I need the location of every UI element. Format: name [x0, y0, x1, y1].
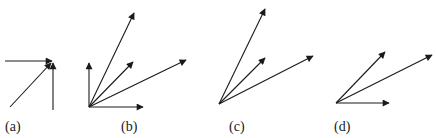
panel-label-c: (c): [229, 119, 245, 135]
panel-a: (a): [5, 61, 53, 135]
vector-b-shallow: [89, 60, 186, 107]
vector-d-long: [336, 55, 432, 103]
vector-c-shallow: [219, 56, 313, 104]
vector-d-upper: [336, 52, 385, 103]
panel-c: (c): [219, 9, 313, 135]
vector-diagram: (a) (b) (c) (d): [0, 0, 436, 138]
vector-c-steep: [219, 9, 265, 104]
panel-b: (b): [89, 13, 186, 135]
panel-label-a: (a): [5, 119, 21, 135]
panel-label-d: (d): [334, 119, 351, 135]
panel-label-b: (b): [121, 119, 138, 135]
panel-d: (d): [334, 52, 432, 135]
vector-b-middle: [89, 62, 133, 107]
vector-a-diagonal: [10, 63, 51, 107]
vector-c-middle: [219, 58, 265, 104]
vector-b-steep: [89, 13, 134, 107]
